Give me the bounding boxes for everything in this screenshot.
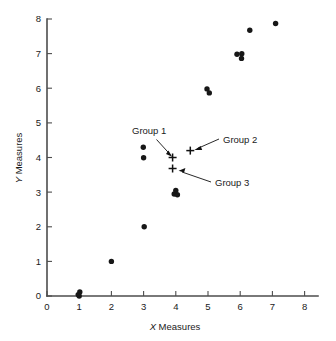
x-tick-label: 7	[270, 301, 275, 312]
centroid-marker-group-2	[186, 147, 194, 155]
scatter-plot-figure: 0 1 2 3 4 5 6 7 8 0 1 2 3 4	[0, 0, 336, 341]
group-3-leader-line	[182, 172, 211, 182]
x-tick-label: 1	[77, 301, 82, 312]
centroid-marker-group-3	[169, 165, 177, 173]
data-point	[239, 56, 244, 61]
x-tick-label: 5	[205, 301, 210, 312]
annotation-label-group-1: Group 1	[132, 125, 166, 136]
y-tick-labels: 0 1 2 3 4 5 6 7 8	[36, 13, 41, 301]
y-tick-label: 0	[36, 290, 41, 301]
annotation-label-group-2: Group 2	[223, 134, 257, 145]
data-point	[273, 21, 278, 26]
data-point	[239, 51, 244, 56]
data-point	[207, 90, 212, 95]
axis-group	[47, 19, 318, 296]
y-tick-label: 8	[36, 13, 41, 24]
x-tick-label: 2	[109, 301, 114, 312]
annotation-leaders-layer	[157, 139, 220, 182]
data-point	[141, 155, 146, 160]
annotation-label-group-3: Group 3	[215, 177, 249, 188]
x-tick-label: 8	[302, 301, 307, 312]
data-point	[109, 259, 114, 264]
y-tick-label: 3	[36, 187, 41, 198]
y-tick-label: 2	[36, 221, 41, 232]
data-point	[76, 292, 81, 297]
x-axis-title-rest: Measures	[156, 321, 201, 332]
y-tick-label: 6	[36, 83, 41, 94]
data-point	[247, 28, 252, 33]
y-tick-label: 5	[36, 117, 41, 128]
data-points-layer	[76, 21, 279, 299]
y-tick-label: 4	[36, 152, 41, 163]
x-tick-labels: 0 1 2 3 4 5 6 7 8	[44, 301, 307, 312]
data-point	[142, 224, 147, 229]
data-point	[234, 52, 239, 57]
y-tick-label: 7	[36, 48, 41, 59]
annotation-labels-layer: Group 1 Group 2 Group 3	[132, 125, 257, 188]
y-axis-title-rest: Measures	[13, 132, 24, 177]
data-point	[173, 188, 178, 193]
x-tick-label: 0	[44, 301, 49, 312]
x-tick-label: 4	[173, 301, 178, 312]
plot-canvas: 0 1 2 3 4 5 6 7 8 0 1 2 3 4	[0, 0, 336, 341]
data-point	[141, 145, 146, 150]
x-tick-label: 3	[141, 301, 146, 312]
x-tick-label: 6	[238, 301, 243, 312]
y-tick-label: 1	[36, 256, 41, 267]
centroid-markers-layer	[169, 147, 195, 173]
x-axis-title: X Measures	[149, 321, 201, 332]
y-axis-title: Y Measures	[13, 132, 24, 183]
group-3-arrowhead-icon	[179, 168, 186, 173]
